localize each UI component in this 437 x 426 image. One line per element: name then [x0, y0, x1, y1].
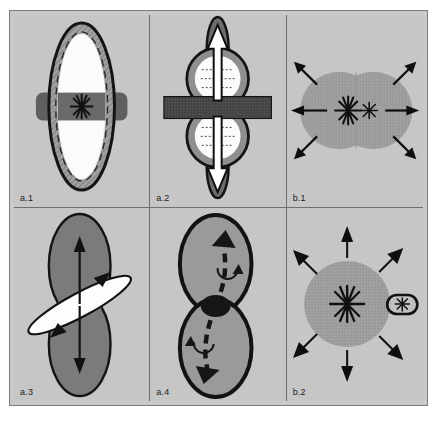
panel-a2-canvas [150, 15, 285, 207]
panel-a4: a.4 [150, 208, 286, 401]
panel-label-a3: a.3 [20, 387, 33, 397]
bud-capsule-b2 [387, 295, 417, 314]
panel-a3: a.3 [14, 208, 150, 401]
figure-root: a.1 [0, 0, 437, 426]
panel-label-a1: a.1 [20, 193, 33, 203]
aster-small-icon [361, 103, 377, 119]
panel-a1-canvas [14, 15, 149, 207]
panel-a3-canvas [14, 208, 149, 401]
panel-b1: b.1 [287, 15, 423, 208]
panel-a1: a.1 [14, 15, 150, 208]
panel-b1-canvas [287, 15, 423, 207]
panel-label-b1: b.1 [293, 193, 306, 203]
panel-label-b2: b.2 [293, 387, 306, 397]
panel-b2: b.2 [287, 208, 423, 401]
aster-icon [335, 97, 361, 125]
aster-icon [330, 286, 364, 322]
panel-label-a2: a.2 [156, 193, 169, 203]
panel-a4-canvas [150, 208, 285, 401]
aster-small-icon [395, 298, 409, 311]
panel-b2-canvas [287, 208, 423, 401]
aster-icon [71, 95, 93, 119]
panel-label-a4: a.4 [156, 387, 169, 397]
panel-a2: a.2 [150, 15, 286, 208]
panel-grid: a.1 [14, 15, 423, 401]
